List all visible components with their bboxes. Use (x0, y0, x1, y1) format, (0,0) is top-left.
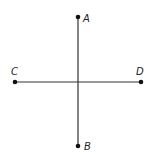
point-b (76, 144, 81, 149)
label-d: D (136, 66, 144, 77)
point-c (13, 80, 18, 85)
point-a (76, 15, 81, 20)
label-b: B (84, 141, 91, 152)
label-a: A (82, 13, 90, 24)
point-d (139, 80, 144, 85)
diagram-canvas: A B C D (0, 0, 155, 157)
label-c: C (11, 66, 18, 77)
